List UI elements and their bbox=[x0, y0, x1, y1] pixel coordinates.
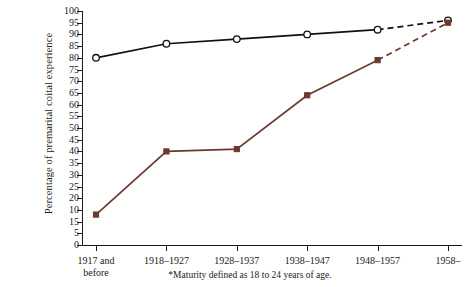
x-tick-mark bbox=[307, 245, 308, 251]
y-tick-label: 20 bbox=[69, 193, 79, 203]
chart-figure: Percentage of premarital coital experien… bbox=[0, 0, 474, 287]
data-point-filled-square bbox=[305, 93, 310, 98]
data-point-open-circle bbox=[234, 36, 241, 43]
x-tick-label: 1948–1957 bbox=[355, 255, 400, 267]
y-tick-label: 90 bbox=[69, 29, 79, 39]
y-tick-label: 70 bbox=[69, 76, 79, 86]
y-tick-label: 95 bbox=[69, 18, 79, 28]
y-tick-label: 40 bbox=[69, 146, 79, 156]
y-tick-label: 15 bbox=[69, 217, 79, 227]
y-tick-label: 100 bbox=[64, 6, 79, 16]
series-line-dashed bbox=[378, 20, 448, 29]
data-point-open-circle bbox=[304, 31, 311, 38]
data-point-filled-square bbox=[164, 149, 169, 154]
x-tick-mark bbox=[237, 245, 238, 251]
y-tick-label: 35 bbox=[69, 158, 79, 168]
y-tick-label: 60 bbox=[69, 100, 79, 110]
footnote: *Maturity defined as 18 to 24 years of a… bbox=[0, 270, 474, 280]
y-tick-label: 50 bbox=[69, 123, 79, 133]
data-series-layer bbox=[82, 11, 462, 245]
x-tick-label: 1958– bbox=[436, 255, 461, 267]
data-point-filled-square bbox=[234, 146, 239, 151]
y-tick-label: 80 bbox=[69, 53, 79, 63]
y-tick-label: 0 bbox=[74, 240, 79, 250]
y-tick-label: 45 bbox=[69, 135, 79, 145]
y-tick-label: 55 bbox=[69, 111, 79, 121]
data-point-filled-square bbox=[445, 20, 450, 25]
y-tick-label: 25 bbox=[69, 182, 79, 192]
plot-area: 1009590858075706560555045403530252010155… bbox=[82, 11, 462, 245]
series-line-solid bbox=[96, 60, 378, 214]
data-point-open-circle bbox=[374, 26, 381, 33]
y-tick-label: 5 bbox=[74, 228, 79, 238]
x-tick-mark bbox=[448, 245, 449, 251]
data-point-filled-square bbox=[93, 212, 98, 217]
x-tick-label: 1918–1927 bbox=[144, 255, 189, 267]
y-axis-title: Percentage of premarital coital experien… bbox=[43, 14, 54, 234]
x-tick-mark bbox=[96, 245, 97, 251]
data-point-open-circle bbox=[93, 55, 100, 62]
data-point-open-circle bbox=[163, 40, 170, 47]
series-lower-series bbox=[93, 20, 450, 217]
x-axis-line bbox=[82, 245, 462, 246]
series-upper-series bbox=[93, 17, 452, 61]
series-line-solid bbox=[96, 30, 378, 58]
y-tick-label: 75 bbox=[69, 65, 79, 75]
y-tick-label: 85 bbox=[69, 41, 79, 51]
y-tick-label: 65 bbox=[69, 88, 79, 98]
x-tick-mark bbox=[378, 245, 379, 251]
data-point-filled-square bbox=[375, 58, 380, 63]
y-tick-label: 30 bbox=[69, 170, 79, 180]
x-tick-label: 1938–1947 bbox=[285, 255, 330, 267]
x-tick-label: 1928–1937 bbox=[214, 255, 259, 267]
y-tick-label: 10 bbox=[69, 205, 79, 215]
x-tick-mark bbox=[166, 245, 167, 251]
